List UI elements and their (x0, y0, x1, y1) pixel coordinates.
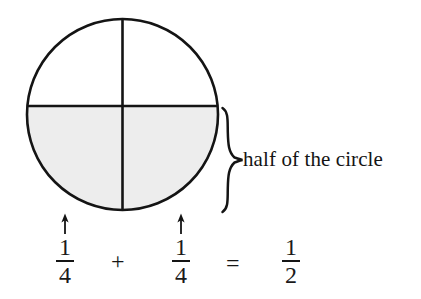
numerator: 1 (282, 235, 300, 259)
equation-term-3: 1 2 (271, 213, 311, 288)
numerator: 1 (56, 235, 74, 259)
circle-outline (25, 17, 220, 212)
numerator: 1 (172, 235, 190, 259)
denominator: 4 (56, 263, 74, 287)
fraction-one-quarter-b: 1 4 (172, 235, 190, 288)
up-arrow-icon (45, 213, 85, 235)
fraction-one-half: 1 2 (282, 235, 300, 288)
curly-brace-icon (219, 106, 245, 214)
fraction-one-quarter-a: 1 4 (56, 235, 74, 288)
brace-label: half of the circle (243, 146, 383, 172)
equation-term-1: 1 4 (45, 213, 85, 288)
denominator: 4 (172, 263, 190, 287)
fraction-diagram-page: half of the circle 1 4 + (0, 0, 421, 299)
equation-row: 1 4 + 1 4 = (0, 213, 421, 299)
plus-operator: + (111, 249, 125, 273)
denominator: 2 (282, 263, 300, 287)
equation-term-2: 1 4 (161, 213, 201, 288)
circle-diagram (25, 17, 220, 212)
up-arrow-icon (161, 213, 201, 235)
equals-operator: = (226, 251, 240, 275)
